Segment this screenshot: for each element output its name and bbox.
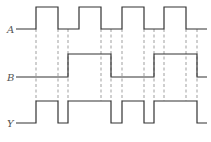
waveform-b	[16, 54, 207, 77]
waveform-a	[16, 7, 207, 29]
signal-waveforms	[16, 7, 207, 123]
signal-label-b: B	[6, 72, 14, 83]
timing-diagram: ABY	[0, 0, 211, 142]
dashed-guide-lines	[36, 29, 197, 101]
signal-label-a: A	[6, 24, 14, 35]
signal-labels: ABY	[6, 24, 15, 129]
signal-label-y: Y	[7, 118, 15, 129]
waveform-y	[16, 101, 207, 123]
